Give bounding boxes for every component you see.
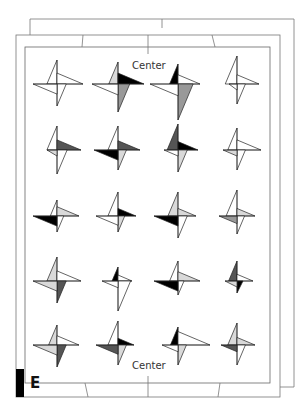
bottom-center-label: Center	[132, 360, 166, 371]
corner-letter: E	[30, 374, 40, 392]
top-center-label: Center	[132, 60, 166, 71]
corner-bar	[16, 369, 24, 397]
